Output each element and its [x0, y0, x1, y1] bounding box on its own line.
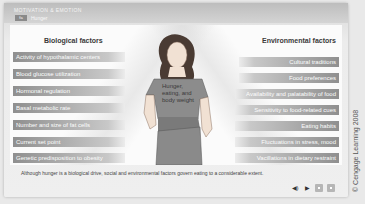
biological-factor-item: Hormonal regulation	[13, 86, 125, 96]
environmental-factor-item: Availability and palatability of food	[235, 89, 339, 99]
environmental-factor-item: Fluctuations in stress, mood	[235, 137, 339, 147]
next-button[interactable]	[327, 184, 335, 192]
woman-illustration: Hunger, eating, and body weight	[132, 33, 224, 165]
play-icon: ▶	[305, 185, 310, 191]
biological-factor-item: Basal metabolic rate	[13, 103, 125, 113]
previous-button[interactable]	[315, 184, 323, 192]
shirt-text: Hunger, eating, and body weight	[162, 83, 196, 104]
biological-factor-item: Genetic predisposition to obesity	[13, 153, 125, 163]
play-button[interactable]: ▶	[303, 184, 311, 192]
environmental-factor-item: Vacillations in dietary restraint	[235, 153, 339, 163]
tab-hunger[interactable]: Hunger	[31, 15, 47, 21]
copyright-text: © Cengage Learning 2008	[352, 92, 359, 192]
header: Motivation & Emotion fa Hunger	[4, 3, 348, 23]
environmental-factor-item: Food preferences	[239, 73, 339, 83]
audio-button[interactable]: ◀)	[291, 184, 299, 192]
biological-factor-item: Number and size of fat cells	[13, 120, 125, 130]
content-panel: Biological factors Environmental factors…	[10, 25, 342, 165]
environmental-factor-item: Eating habits	[235, 121, 339, 131]
biological-factors-title: Biological factors	[44, 37, 103, 44]
caption-text: Although hunger is a biological drive, s…	[21, 170, 281, 176]
environmental-factor-item: Cultural traditions	[239, 57, 339, 67]
biological-factor-item: Blood glucose utilization	[13, 69, 125, 79]
app-title: Motivation & Emotion	[14, 7, 82, 13]
speaker-icon: ◀)	[292, 185, 299, 191]
biological-factor-item: Current set point	[13, 137, 125, 147]
environmental-factors-title: Environmental factors	[262, 37, 336, 44]
app-frame: Motivation & Emotion fa Hunger Biologica…	[4, 3, 348, 197]
biological-factor-item: Activity of hypothalamic centers	[13, 52, 125, 62]
environmental-factor-item: Sensitivity to food-related cues	[235, 105, 339, 115]
tab-badge[interactable]: fa	[15, 15, 27, 21]
